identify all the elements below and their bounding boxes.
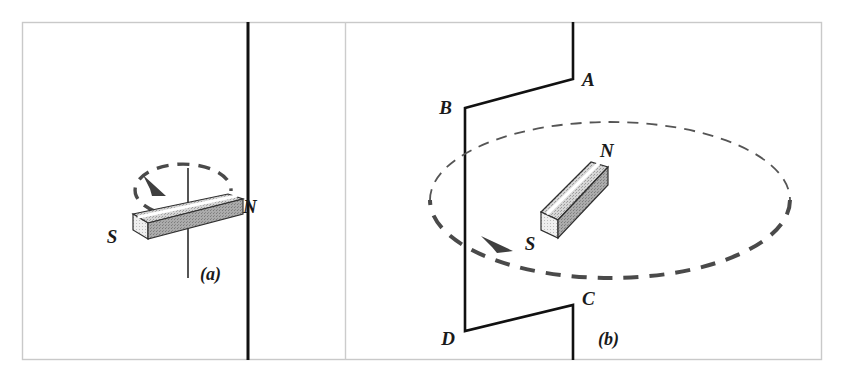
magnet-a-south-label: S [107, 226, 118, 247]
magnet-a-north-label: N [242, 196, 258, 217]
figure-frame [23, 23, 822, 360]
node-label-b: B [438, 97, 452, 118]
figure-svg: S N (a) [0, 0, 843, 383]
outer-frame-rect [23, 23, 822, 360]
figure-root: S N (a) [0, 0, 843, 383]
magnet-b-south-label: S [525, 233, 536, 254]
magnet-b-north-label: N [599, 140, 615, 161]
node-label-a: A [581, 69, 595, 90]
node-label-d: D [440, 328, 455, 349]
panel-b-caption: (b) [598, 329, 619, 350]
panel-a-caption: (a) [200, 264, 221, 285]
node-label-c: C [582, 288, 595, 309]
